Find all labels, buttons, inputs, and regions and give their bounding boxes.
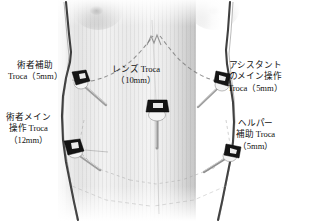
label-line: 術者メイン xyxy=(6,112,51,123)
label-line: 術者補助 xyxy=(8,60,62,71)
label-line: Troca（5mm） xyxy=(228,83,282,94)
lens-trocar xyxy=(146,100,169,148)
label-line: （5mm） xyxy=(236,141,275,152)
trocar-head-highlight xyxy=(71,142,79,149)
inguinal-line-right xyxy=(154,186,226,206)
label-lens-trocar: レンズ Troca （10mm） xyxy=(112,64,160,87)
label-assistant-main-trocar: アシスタント のメイン操作 Troca（5mm） xyxy=(228,60,282,94)
label-helper-assist-trocar: ヘルパー 補助 Troca （5mm） xyxy=(236,118,275,152)
figure-canvas: 術者補助 Troca（5mm） 術者メイン 操作 Troca （12mm） レン… xyxy=(0,0,313,224)
trocar-head-highlight xyxy=(79,73,86,79)
label-line: 操作 Troca xyxy=(6,123,51,134)
label-line: のメイン操作 xyxy=(228,71,282,82)
label-line: アシスタント xyxy=(228,60,282,71)
label-line: （10mm） xyxy=(112,75,160,86)
trocar-guide-line xyxy=(85,150,108,152)
torso-contour-right xyxy=(218,2,234,220)
label-line: Troca（5mm） xyxy=(8,71,62,82)
surgeon-main-trocar xyxy=(64,139,108,170)
inguinal-line-left xyxy=(72,186,150,206)
label-surgeon-assist-trocar: 術者補助 Troca（5mm） xyxy=(8,60,62,83)
pelvic-outline-bottom xyxy=(130,180,182,184)
label-line: （12mm） xyxy=(6,135,51,146)
trocar-head-highlight xyxy=(153,103,163,108)
surgeon-assist-trocar xyxy=(72,70,106,105)
label-surgeon-main-trocar: 術者メイン 操作 Troca （12mm） xyxy=(6,112,51,146)
label-line: ヘルパー xyxy=(236,118,275,129)
label-line: レンズ Troca xyxy=(112,64,160,75)
costal-margin-right xyxy=(160,36,222,82)
label-line: 補助 Troca xyxy=(236,129,275,140)
xiphoid-notch xyxy=(147,35,161,45)
